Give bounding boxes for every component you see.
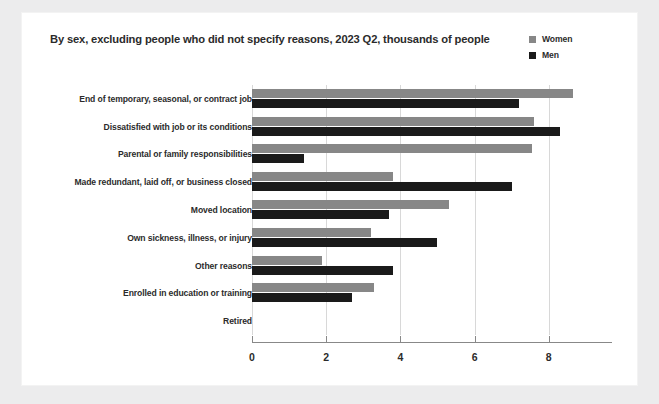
gridline <box>549 85 550 335</box>
bar-men[interactable] <box>252 127 560 136</box>
bar-men[interactable] <box>252 293 352 302</box>
y-axis-category-label: End of temporary, seasonal, or contract … <box>32 94 252 104</box>
y-axis-category-label: Dissatisfied with job or its conditions <box>32 122 252 132</box>
x-axis-tick-label: 2 <box>323 351 329 363</box>
bar-men[interactable] <box>252 266 393 275</box>
y-axis-category-label: Moved location <box>32 205 252 215</box>
bar-men[interactable] <box>252 238 437 247</box>
x-axis-line <box>252 342 612 343</box>
x-axis-tick-label: 8 <box>546 351 552 363</box>
bar-women[interactable] <box>252 89 573 98</box>
chart-plot-area: End of temporary, seasonal, or contract … <box>22 13 637 385</box>
y-axis-category-label: Enrolled in education or training <box>32 288 252 298</box>
bar-men[interactable] <box>252 154 304 163</box>
x-axis-tick-label: 6 <box>472 351 478 363</box>
bar-women[interactable] <box>252 200 449 209</box>
bar-women[interactable] <box>252 172 393 181</box>
x-axis-tick-label: 4 <box>397 351 403 363</box>
bar-women[interactable] <box>252 117 534 126</box>
bars-container <box>252 85 597 335</box>
y-axis-category-label: Retired <box>32 316 252 326</box>
y-axis-category-labels: End of temporary, seasonal, or contract … <box>32 85 252 335</box>
x-axis-tick <box>549 336 550 343</box>
bar-men[interactable] <box>252 99 519 108</box>
bar-men[interactable] <box>252 182 512 191</box>
bar-women[interactable] <box>252 256 322 265</box>
x-axis-tick <box>252 336 253 343</box>
y-axis-category-label: Own sickness, illness, or injury <box>32 233 252 243</box>
y-axis-category-label: Other reasons <box>32 261 252 271</box>
bar-women[interactable] <box>252 228 371 237</box>
x-axis-tick <box>326 336 327 343</box>
y-axis-category-label: Made redundant, laid off, or business cl… <box>32 177 252 187</box>
chart-card: By sex, excluding people who did not spe… <box>22 13 637 385</box>
x-axis-tick <box>475 336 476 343</box>
x-axis-tick <box>400 336 401 343</box>
bar-men[interactable] <box>252 210 389 219</box>
bar-women[interactable] <box>252 144 532 153</box>
x-axis-tick-label: 0 <box>249 351 255 363</box>
y-axis-category-label: Parental or family responsibilities <box>32 149 252 159</box>
bar-women[interactable] <box>252 283 374 292</box>
